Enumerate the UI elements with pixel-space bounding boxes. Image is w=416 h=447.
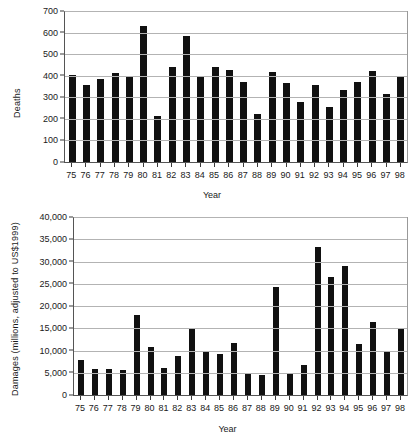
bar (369, 71, 376, 162)
x-tick-mark (71, 163, 72, 167)
x-tick-mark (371, 163, 372, 167)
x-tick-label: 87 (242, 402, 252, 414)
bar (370, 322, 376, 395)
x-tick-mark (247, 396, 248, 400)
x-tick-label: 88 (252, 169, 262, 181)
bar (212, 67, 219, 162)
x-tick-label: 98 (395, 169, 405, 181)
y-tick-label: 15,000 (39, 324, 73, 333)
x-tick-label: 92 (312, 402, 322, 414)
x-tick-mark (185, 163, 186, 167)
x-tick-label: 75 (66, 169, 76, 181)
bar (140, 26, 147, 162)
x-tick-label: 97 (381, 169, 391, 181)
x-tick-mark (286, 163, 287, 167)
x-tick-mark (143, 163, 144, 167)
x-tick-mark (200, 163, 201, 167)
x-tick-mark (372, 396, 373, 400)
bar (354, 82, 361, 162)
x-tick-mark (128, 163, 129, 167)
damages-chart-panel: Damages (millions, adjusted to US$1999) … (0, 206, 416, 447)
bar (383, 94, 390, 162)
gridline (65, 97, 407, 98)
x-tick-label: 90 (281, 169, 291, 181)
deaths-x-tick-labels: 7576777879808182838485868788899091929394… (0, 169, 407, 181)
bar (328, 277, 334, 395)
deaths-x-axis-title: Year (40, 190, 384, 200)
x-tick-label: 97 (381, 402, 391, 414)
gridline (74, 217, 407, 218)
bar (245, 373, 251, 395)
x-tick-mark (85, 163, 86, 167)
gridline (65, 119, 407, 120)
deaths-plot-area (64, 11, 408, 163)
gridline (74, 284, 407, 285)
x-tick-label: 95 (352, 169, 362, 181)
gridline (65, 33, 407, 34)
x-tick-label: 91 (298, 402, 308, 414)
x-tick-mark (191, 396, 192, 400)
x-tick-mark (233, 396, 234, 400)
x-tick-mark (386, 396, 387, 400)
bar (240, 82, 247, 162)
x-tick-mark (314, 163, 315, 167)
x-tick-label: 90 (284, 402, 294, 414)
x-tick-mark (289, 396, 290, 400)
x-tick-label: 93 (325, 402, 335, 414)
x-tick-mark (100, 163, 101, 167)
gridline (65, 140, 407, 141)
x-tick-mark (243, 163, 244, 167)
x-tick-label: 77 (95, 169, 105, 181)
y-tick-label: 700 (43, 7, 64, 16)
x-tick-mark (214, 163, 215, 167)
bar (175, 356, 181, 395)
x-tick-label: 77 (103, 402, 113, 414)
x-tick-mark (328, 163, 329, 167)
x-tick-mark (343, 163, 344, 167)
x-tick-label: 95 (353, 402, 363, 414)
bar (169, 67, 176, 162)
bar (340, 90, 347, 162)
x-tick-label: 79 (123, 169, 133, 181)
damages-plot-area (73, 217, 408, 396)
x-tick-mark (275, 396, 276, 400)
x-tick-mark (257, 163, 258, 167)
x-tick-mark (317, 396, 318, 400)
y-tick-label: 25,000 (39, 279, 73, 288)
x-tick-label: 75 (75, 402, 85, 414)
bar (112, 73, 119, 162)
gridline (74, 373, 407, 374)
two-panel-bar-figure: Deaths 0100200300400500600700 7576777879… (0, 0, 416, 447)
x-tick-label: 81 (152, 169, 162, 181)
bar (226, 70, 233, 162)
x-tick-mark (228, 163, 229, 167)
x-tick-label: 83 (180, 169, 190, 181)
x-tick-mark (303, 396, 304, 400)
x-tick-label: 80 (145, 402, 155, 414)
x-tick-label: 87 (238, 169, 248, 181)
bar (398, 329, 404, 395)
y-tick-label: 10,000 (39, 346, 73, 355)
x-tick-mark (261, 396, 262, 400)
gridline (74, 328, 407, 329)
x-tick-label: 78 (109, 169, 119, 181)
x-tick-mark (205, 396, 206, 400)
y-tick-label: 500 (43, 50, 64, 59)
y-tick-label: 100 (43, 136, 64, 145)
x-tick-label: 93 (323, 169, 333, 181)
damages-x-tick-labels: 7576777879808182838485868788899091929394… (0, 402, 407, 414)
bar (183, 36, 190, 162)
y-tick-label: 40,000 (39, 213, 73, 222)
x-tick-label: 89 (266, 169, 276, 181)
x-tick-mark (171, 163, 172, 167)
x-tick-mark (358, 396, 359, 400)
y-tick-label: 20,000 (39, 302, 73, 311)
x-tick-label: 82 (172, 402, 182, 414)
x-tick-label: 83 (186, 402, 196, 414)
x-tick-label: 79 (131, 402, 141, 414)
x-tick-mark (163, 396, 164, 400)
gridline (74, 351, 407, 352)
x-tick-mark (400, 396, 401, 400)
bar (78, 360, 84, 395)
x-tick-mark (80, 396, 81, 400)
